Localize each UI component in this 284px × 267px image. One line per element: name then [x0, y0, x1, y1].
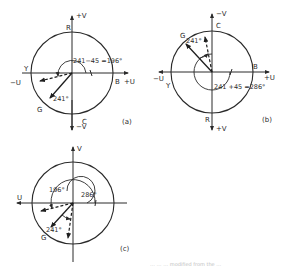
circle-label-g: G: [180, 32, 185, 40]
vector-diagram-figure: +V −V −U +U R C Y B G 241° 241−45 =196° …: [0, 0, 284, 267]
axis-label-v: V: [77, 145, 82, 153]
circle-label-g: G: [41, 234, 46, 242]
circle-label-b: B: [115, 78, 120, 86]
axis-label-pos-v: +V: [76, 12, 87, 20]
axis-label-pos-v: +V: [216, 125, 227, 133]
circle-label-r: R: [66, 24, 71, 32]
angle-arc-286: [67, 176, 95, 203]
circle-label-y: Y: [165, 82, 171, 90]
axis-label-neg-u: −U: [153, 75, 164, 83]
axis-label-u: U: [17, 194, 22, 202]
small-angle-arc: [62, 215, 70, 219]
angle-label-196: 196°: [49, 186, 65, 194]
axis-label-neg-u: −U: [10, 79, 21, 87]
panel-a: +V −V −U +U R C Y B G 241° 241−45 =196° …: [10, 12, 135, 131]
panel-caption: (c): [120, 245, 130, 253]
angle-label: 241−45 =196°: [73, 57, 122, 65]
circle-label-c: C: [82, 118, 87, 126]
axis-label-pos-u: +U: [124, 78, 135, 86]
vector-label: 241°: [186, 37, 202, 45]
circle-label-c: C: [216, 22, 221, 30]
vector-196-dashed: [40, 73, 72, 81]
panel-caption: (a): [122, 118, 132, 126]
circle-label-b: B: [253, 63, 258, 71]
vector-196-dashed: [41, 203, 73, 211]
angle-label: 241 +45 =286°: [214, 83, 265, 91]
circle-label-g: G: [37, 106, 42, 114]
panel-caption: (b): [262, 116, 272, 124]
axis-label-neg-v: −V: [216, 10, 227, 18]
vector-label: 241°: [46, 226, 62, 234]
panel-b: −V +V −U +U C R Y B G 241° 241 +45 =286°…: [153, 10, 275, 133]
panel-c: V U G 241° 196° 286° (c): [17, 145, 130, 262]
vector-label: 241°: [53, 95, 69, 103]
angle-label-286: 286°: [81, 191, 97, 199]
axis-label-pos-u: +U: [264, 74, 275, 82]
footer-text: … … … modified from the …: [150, 261, 221, 267]
circle-label-y: Y: [23, 65, 29, 73]
vector-241: [186, 44, 212, 72]
circle-label-r: R: [205, 116, 210, 124]
